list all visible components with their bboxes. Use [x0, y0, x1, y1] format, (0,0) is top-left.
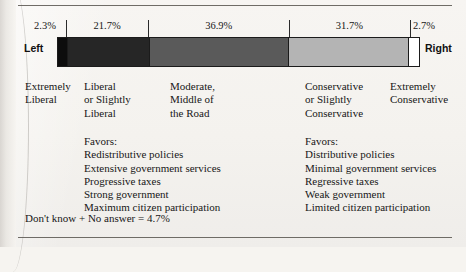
bar-segment-percent-2: 36.9% [189, 19, 249, 33]
bar-segment-percent-4: 2.7% [413, 19, 443, 33]
category-label-3: Conservative or Slightly Conservative [305, 80, 363, 120]
bar-boundary-tick-1 [148, 20, 149, 37]
favors-liberal-item: Redistributive policies [84, 148, 221, 161]
bar-segment-percent-0: 2.3% [30, 19, 60, 33]
favors-liberal-item: Progressive taxes [84, 175, 221, 188]
bar-segment-3 [288, 38, 408, 66]
bar-boundary-tick-0 [66, 20, 67, 37]
scan-page-curl [2, 0, 29, 272]
favors-liberal-item: Strong government [84, 188, 221, 201]
left-pole-label: Left [24, 42, 43, 54]
ideology-stacked-bar [57, 37, 420, 67]
favors-conservative-item: Limited citizen participation [305, 201, 436, 214]
favors-conservative-item: Minimal government services [305, 162, 436, 175]
footnote-dont-know: Don't know + No answer = 4.7% [25, 212, 170, 225]
category-label-2: Moderate, Middle of the Road [170, 80, 215, 120]
bar-boundary-tick-3 [410, 20, 411, 37]
bar-segment-percent-3: 31.7% [319, 19, 379, 33]
bar-segment-1 [67, 38, 149, 66]
favors-conservative-block: Favors: Distributive policies Minimal go… [305, 135, 436, 215]
bar-segment-0 [58, 38, 67, 66]
bar-boundary-tick-2 [289, 20, 290, 37]
favors-conservative-item: Distributive policies [305, 148, 436, 161]
favors-conservative-heading: Favors: [305, 135, 436, 148]
bar-segment-4 [408, 38, 419, 66]
favors-conservative-item: Regressive taxes [305, 175, 436, 188]
category-label-1: Liberal or Slightly Liberal [84, 80, 131, 120]
category-label-4: Extremely Conservative [390, 80, 448, 107]
favors-liberal-block: Favors: Redistributive policies Extensiv… [84, 135, 221, 215]
favors-liberal-item: Extensive government services [84, 162, 221, 175]
percentage-label-row: 2.3%21.7%36.9%31.7%2.7% [0, 19, 466, 37]
favors-conservative-item: Weak government [305, 188, 436, 201]
favors-liberal-heading: Favors: [84, 135, 221, 148]
category-label-row: Extremely LiberalLiberal or Slightly Lib… [0, 80, 466, 128]
bar-segment-percent-1: 21.7% [77, 19, 137, 33]
bar-segment-2 [149, 38, 288, 66]
right-pole-label: Right [425, 42, 452, 54]
bottom-divider-rule [18, 237, 452, 238]
category-label-0: Extremely Liberal [25, 80, 71, 107]
top-divider-rule [18, 5, 452, 6]
